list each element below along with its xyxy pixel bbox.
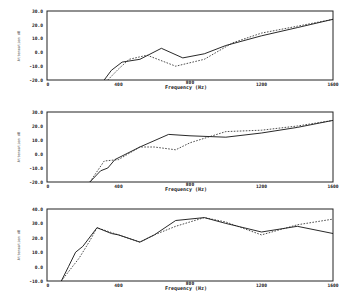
- x-tick: 400: [114, 283, 123, 288]
- plot-3-solid-line: [61, 218, 333, 281]
- plot-3-y-ticks: 40.0 30.0 20.0 10.0 0.0 -10.0: [29, 207, 43, 284]
- plot-1-dashed-line: [108, 19, 333, 80]
- x-tick: 1600: [327, 82, 338, 87]
- x-tick: 0: [47, 184, 50, 189]
- x-tick: 400: [114, 184, 123, 189]
- y-tick: 20.0: [32, 236, 43, 241]
- x-tick: 1600: [327, 283, 338, 288]
- plot-2-solid-line: [90, 120, 333, 182]
- x-axis-title: Frequency (Hz): [165, 84, 207, 91]
- plot-1-solid-line: [104, 19, 333, 80]
- x-axis-title: Frequency (Hz): [165, 186, 207, 193]
- y-axis-title: Attenuation dB: [17, 230, 21, 260]
- plot-2-y-ticks: 30.0 20.0 10.0 0.0 -10.0 -20.0: [29, 110, 43, 185]
- figure: 30.0 20.0 10.0 0.0 -10.0 -20.0 0 400 800…: [0, 0, 347, 296]
- x-tick: 1600: [327, 184, 338, 189]
- x-tick: 0: [47, 82, 50, 87]
- plot-1-y-ticks: 30.0 20.0 10.0 0.0 -10.0 -20.0: [29, 9, 43, 83]
- y-tick: 0.0: [35, 265, 44, 270]
- x-tick: 400: [114, 82, 123, 87]
- y-axis-title: Attenuation dB: [17, 31, 21, 61]
- plot-2-dashed-line: [90, 120, 333, 182]
- y-tick: -10.0: [29, 279, 43, 284]
- plot-2: 30.0 20.0 10.0 0.0 -10.0 -20.0 0 400 800…: [17, 110, 339, 193]
- y-tick: 30.0: [32, 110, 43, 115]
- y-tick: 0.0: [35, 152, 44, 157]
- y-tick: -20.0: [29, 180, 43, 185]
- plot-2-frame: [47, 112, 333, 182]
- y-tick: 40.0: [32, 207, 43, 212]
- y-tick: 10.0: [32, 138, 43, 143]
- x-tick: 1200: [256, 283, 267, 288]
- y-tick: 30.0: [32, 9, 43, 14]
- x-tick: 1200: [256, 184, 267, 189]
- y-tick: 10.0: [32, 36, 43, 41]
- y-tick: 10.0: [32, 250, 43, 255]
- plot-1: 30.0 20.0 10.0 0.0 -10.0 -20.0 0 400 800…: [17, 9, 339, 91]
- y-tick: -10.0: [29, 166, 43, 171]
- plot-3: 40.0 30.0 20.0 10.0 0.0 -10.0 0 400 800 …: [17, 207, 339, 292]
- y-tick: 20.0: [32, 23, 43, 28]
- y-tick: -10.0: [29, 64, 43, 69]
- y-tick: 20.0: [32, 124, 43, 129]
- x-tick: 0: [47, 283, 50, 288]
- x-tick: 1200: [256, 82, 267, 87]
- y-tick: 0.0: [35, 50, 44, 55]
- y-tick: -20.0: [29, 78, 43, 83]
- plot-3-frame: [47, 209, 333, 281]
- x-axis-title: Frequency (Hz): [165, 285, 207, 292]
- y-axis-title: Attenuation dB: [17, 132, 21, 162]
- y-tick: 30.0: [32, 221, 43, 226]
- plot-1-frame: [47, 11, 333, 80]
